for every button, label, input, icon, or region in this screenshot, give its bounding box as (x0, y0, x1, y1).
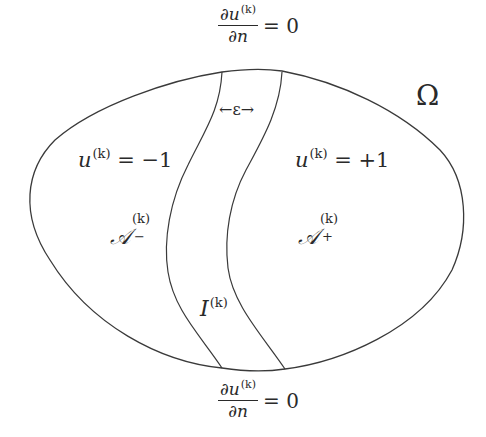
interface-label: I(k) (200, 298, 228, 320)
left-value-base: u (78, 148, 92, 172)
omega-label: Ω (416, 82, 439, 110)
bottom-bc-numerator: ∂u (220, 379, 240, 399)
right-set-label: 𝒜(k)+ (298, 222, 345, 248)
right-region-value: u(k) = +1 (295, 150, 389, 171)
bottom-bc-superscript: (k) (241, 378, 256, 391)
top-bc-rhs: = 0 (263, 14, 299, 38)
top-bc-superscript: (k) (241, 3, 256, 16)
diagram-canvas (0, 0, 486, 437)
left-set-sub: − (134, 230, 145, 243)
left-value-sup: (k) (93, 146, 111, 161)
interface-left-curve (166, 72, 222, 368)
left-value-rhs: = −1 (117, 148, 172, 172)
right-set-sup: (k) (320, 212, 338, 225)
left-region-value: u(k) = −1 (78, 150, 172, 171)
left-set-sup: (k) (132, 212, 150, 225)
left-set-base: 𝒜 (110, 224, 131, 249)
right-value-rhs: = +1 (334, 148, 389, 172)
top-bc-numerator: ∂u (220, 4, 240, 24)
right-value-sup: (k) (310, 146, 328, 161)
right-set-base: 𝒜 (298, 224, 319, 249)
right-value-base: u (295, 148, 309, 172)
top-boundary-condition: ∂u(k) ∂n = 0 (218, 6, 299, 45)
bottom-bc-rhs: = 0 (263, 389, 299, 413)
top-bc-denominator: ∂n (218, 26, 258, 45)
bottom-boundary-condition: ∂u(k) ∂n = 0 (218, 381, 299, 420)
bottom-bc-denominator: ∂n (218, 401, 258, 420)
epsilon-width-label: ←ε→ (219, 102, 254, 118)
bottom-bc-fraction: ∂u(k) ∂n (218, 381, 258, 420)
top-bc-fraction: ∂u(k) ∂n (218, 6, 258, 45)
interface-base: I (200, 296, 209, 321)
interface-sup: (k) (210, 295, 228, 310)
left-set-label: 𝒜(k)− (110, 222, 157, 248)
right-set-sub: + (322, 230, 333, 243)
